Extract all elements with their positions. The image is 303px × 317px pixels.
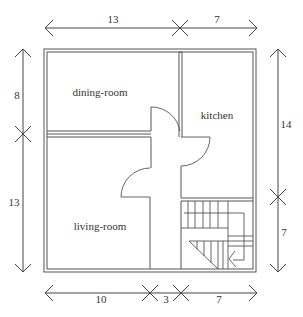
stair-arrow-icon [229,251,236,267]
dim-left-13: 13 [9,196,21,208]
door-arc-kitchen [181,137,210,166]
room-label-dining: dining-room [73,86,128,98]
dimension-bottom: 10 3 7 [45,285,257,305]
dimension-right: 14 7 [270,49,292,272]
staircase [181,201,253,269]
door-arc-living [121,168,150,197]
dim-bottom-7: 7 [216,293,222,305]
dim-top-7: 7 [214,13,220,25]
dim-right-7: 7 [281,226,287,238]
dim-left-8: 8 [14,89,20,101]
living-room: living-room [47,137,151,269]
dimension-left: 8 13 [9,49,32,272]
kitchen: kitchen [179,52,253,201]
dim-right-14: 14 [281,118,293,130]
room-label-living: living-room [74,220,127,232]
dim-bottom-3: 3 [163,293,169,305]
dim-bottom-10: 10 [96,293,108,305]
dining-room: dining-room [47,86,180,134]
floor-plan: dining-room kitchen living-room [0,0,303,317]
room-label-kitchen: kitchen [201,109,234,121]
dim-top-13: 13 [108,13,120,25]
door-arc-dining [151,107,180,131]
dimension-top: 13 7 [45,13,257,36]
